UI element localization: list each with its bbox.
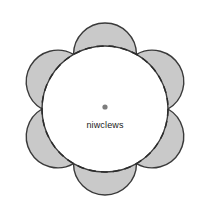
center-label: niwclews — [0, 120, 210, 130]
geometry-figure-canvas: niwclews — [0, 0, 210, 218]
petal-rosette-diagram — [0, 0, 210, 218]
petal-bottom — [26, 109, 73, 168]
center-point-marker — [102, 104, 107, 109]
